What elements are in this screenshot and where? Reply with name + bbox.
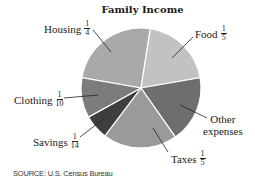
label-food: Food 1 5 [195, 25, 227, 42]
fraction-denominator: 5 [201, 159, 205, 167]
source-note: SOURCE: U.S. Census Bureau [13, 169, 112, 178]
fraction-denominator: 5 [222, 34, 226, 42]
fraction-housing: 1 4 [84, 20, 90, 37]
label-other-line1: Other [203, 113, 243, 125]
label-other-line2: expenses [203, 125, 243, 137]
label-clothing: Clothing 1 10 [14, 91, 64, 108]
fraction-denominator: 10 [56, 100, 64, 108]
fraction-food: 1 5 [221, 25, 227, 42]
label-clothing-name: Clothing [14, 94, 53, 106]
label-other-expenses: Other expenses [203, 113, 243, 137]
label-taxes: Taxes 1 5 [171, 150, 206, 167]
fraction-denominator: 4 [85, 29, 89, 37]
fraction-denominator: 14 [71, 142, 79, 150]
label-housing: Housing 1 4 [44, 20, 90, 37]
label-savings-name: Savings [33, 136, 68, 148]
fraction-clothing: 1 10 [56, 91, 64, 108]
label-housing-name: Housing [44, 23, 81, 35]
label-food-name: Food [195, 28, 218, 40]
label-taxes-name: Taxes [171, 153, 197, 165]
label-savings: Savings 1 14 [33, 133, 79, 150]
fraction-taxes: 1 5 [200, 150, 206, 167]
fraction-savings: 1 14 [71, 133, 79, 150]
